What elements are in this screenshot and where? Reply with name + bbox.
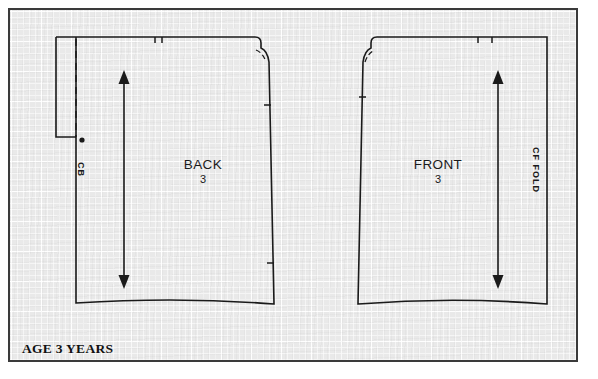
pattern-sheet-image: BACK 3 FRONT 3 CB CF FOLD AGE 3 YEARS [0, 0, 598, 379]
back-grainline-arrow [119, 70, 130, 289]
front-grainline-arrow [493, 70, 504, 289]
centre-back-label: CB [76, 162, 86, 177]
front-piece-label: FRONT [395, 157, 481, 172]
back-fold-dot [79, 137, 84, 142]
back-neckline-seam-dashed [256, 50, 266, 62]
back-centre-back-step [56, 37, 76, 137]
front-piece-size: 3 [395, 173, 481, 185]
back-piece-size: 3 [160, 173, 246, 185]
back-piece-label: BACK [160, 157, 246, 172]
pattern-pieces-drawing [10, 10, 578, 362]
gridded-pattern-paper: BACK 3 FRONT 3 CB CF FOLD AGE 3 YEARS [8, 8, 578, 362]
centre-front-fold-label: CF FOLD [531, 147, 541, 193]
age-size-label: AGE 3 YEARS [22, 341, 113, 357]
